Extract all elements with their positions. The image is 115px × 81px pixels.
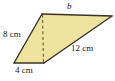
geometry-figure: b 8 cm 4 cm 12 cm xyxy=(0,0,115,81)
label-bottom-side-4cm: 4 cm xyxy=(15,65,33,75)
label-left-side-8cm: 8 cm xyxy=(3,29,21,39)
label-diagonal-12cm: 12 cm xyxy=(71,43,93,53)
label-top-side-b: b xyxy=(67,1,72,11)
